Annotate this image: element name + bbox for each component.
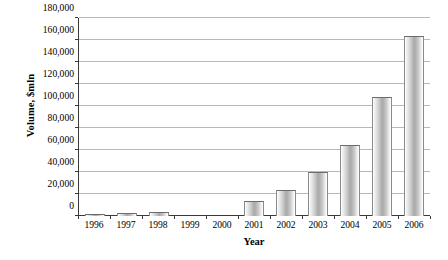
- y-tick-label: 40,000: [4, 156, 74, 167]
- x-tick-label: 2000: [206, 219, 238, 230]
- y-tick-label: 0: [4, 200, 74, 211]
- x-tick-label: 2003: [302, 219, 334, 230]
- x-tick-label: 2002: [270, 219, 302, 230]
- y-tick-mark: [75, 83, 78, 84]
- x-tick-label: 2001: [238, 219, 270, 230]
- y-tick-mark: [75, 193, 78, 194]
- y-axis-ticks: 020,00040,00060,00080,000100,000120,0001…: [78, 18, 430, 216]
- x-tick-label: 1997: [110, 219, 142, 230]
- y-tick-label: 80,000: [4, 112, 74, 123]
- y-tick-mark: [75, 39, 78, 40]
- y-tick-mark: [75, 171, 78, 172]
- y-tick-label: 140,000: [4, 46, 74, 57]
- x-tick-mark: [430, 216, 431, 219]
- bar-chart: Volume, $mln 020,00040,00060,00080,00010…: [0, 0, 448, 260]
- y-tick-mark: [75, 105, 78, 106]
- y-tick-label: 120,000: [4, 68, 74, 79]
- y-tick-label: 180,000: [4, 2, 74, 13]
- x-axis-ticks: 1996199719981999200020012002200320042005…: [78, 219, 430, 230]
- y-tick-label: 20,000: [4, 178, 74, 189]
- y-tick-label: 100,000: [4, 90, 74, 101]
- y-tick-label: 60,000: [4, 134, 74, 145]
- y-tick-mark: [75, 127, 78, 128]
- y-tick-mark: [75, 61, 78, 62]
- x-tick-label: 1999: [174, 219, 206, 230]
- y-axis-title: Volume, $mln: [25, 46, 36, 166]
- y-tick-label: 160,000: [4, 24, 74, 35]
- x-tick-label: 1996: [78, 219, 110, 230]
- x-tick-label: 2005: [366, 219, 398, 230]
- x-tick-label: 1998: [142, 219, 174, 230]
- y-tick-mark: [75, 17, 78, 18]
- x-axis-title: Year: [78, 236, 430, 247]
- x-tick-label: 2006: [398, 219, 430, 230]
- y-tick-mark: [75, 149, 78, 150]
- x-tick-label: 2004: [334, 219, 366, 230]
